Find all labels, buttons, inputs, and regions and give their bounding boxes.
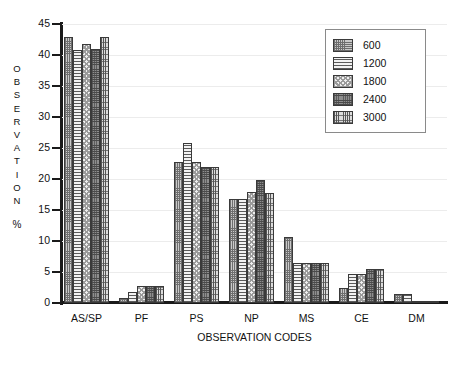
bar <box>229 199 238 303</box>
bar <box>64 37 73 303</box>
bar-group <box>174 24 219 303</box>
legend-swatch <box>333 111 353 124</box>
x-axis-category-label: MS <box>299 312 315 324</box>
bar <box>91 49 100 303</box>
x-axis-category-label: PF <box>135 312 148 324</box>
legend-swatch <box>333 93 353 106</box>
bar <box>247 192 256 303</box>
x-axis-category-label: PS <box>189 312 203 324</box>
bar <box>210 167 219 303</box>
y-axis-tick-mark <box>52 116 61 118</box>
y-axis-tick-label: 25 <box>4 141 50 153</box>
bar <box>311 263 320 303</box>
bar-group <box>64 24 109 303</box>
bar <box>394 294 403 303</box>
y-axis-tick-mark <box>52 240 61 242</box>
bar <box>320 263 329 303</box>
legend-swatch <box>333 75 353 88</box>
bar <box>174 162 183 303</box>
bar <box>403 294 412 303</box>
bar <box>100 37 109 303</box>
legend-item: 600 <box>333 36 418 54</box>
legend-swatch <box>333 39 353 52</box>
bar <box>265 193 274 303</box>
bar-group <box>229 24 274 303</box>
x-axis-category-labels: AS/SPPFPSNPMSCEDM <box>62 312 447 330</box>
legend-label: 1200 <box>363 57 386 69</box>
y-axis-tick-mark <box>52 271 61 273</box>
bar <box>137 286 146 303</box>
bar <box>302 263 311 303</box>
y-axis-tick-label: 45 <box>4 17 50 29</box>
legend-label: 3000 <box>363 111 386 123</box>
bar <box>119 298 128 303</box>
bar <box>375 269 384 303</box>
bar <box>201 167 210 303</box>
x-axis-category-label: NP <box>244 312 259 324</box>
bar <box>183 143 192 303</box>
y-axis-tick-mark <box>52 147 61 149</box>
y-axis-tick-label: 20 <box>4 172 50 184</box>
x-axis-title: OBSERVATION CODES <box>62 331 447 343</box>
legend-label: 1800 <box>363 75 386 87</box>
y-axis-tick-label: 30 <box>4 110 50 122</box>
bar <box>412 301 421 303</box>
bar <box>348 274 357 303</box>
y-axis-tick-label: 35 <box>4 79 50 91</box>
legend-item: 1200 <box>333 54 418 72</box>
legend-label: 600 <box>363 39 381 51</box>
bar <box>73 50 82 303</box>
bar <box>357 274 366 303</box>
y-axis-tick-mark <box>52 178 61 180</box>
y-axis-tick-mark <box>52 302 61 304</box>
y-axis-tick-mark <box>52 209 61 211</box>
bar <box>128 292 137 303</box>
bar <box>366 269 375 303</box>
y-axis-tick-mark <box>52 85 61 87</box>
y-axis-tick-label: 5 <box>4 265 50 277</box>
y-axis-tick-mark <box>52 54 61 56</box>
bar <box>82 44 91 303</box>
y-axis-tick-labels: 051015202530354045 <box>0 0 50 367</box>
y-axis-tick-label: 40 <box>4 48 50 60</box>
bar <box>293 263 302 303</box>
legend-item: 2400 <box>333 90 418 108</box>
y-axis-tick-label: 10 <box>4 234 50 246</box>
legend: 6001200180024003000 <box>325 29 426 133</box>
y-axis-tick-label: 0 <box>4 296 50 308</box>
bar <box>238 199 247 303</box>
bar <box>155 286 164 303</box>
bar <box>256 180 265 303</box>
bar-chart: OBSERVATION% 051015202530354045 AS/SPPFP… <box>0 0 455 367</box>
legend-swatch <box>333 57 353 70</box>
bar-group <box>284 24 329 303</box>
bar <box>146 286 155 303</box>
x-axis-category-label: DM <box>408 312 424 324</box>
y-axis-tick-label: 15 <box>4 203 50 215</box>
legend-item: 1800 <box>333 72 418 90</box>
bar-group <box>119 24 164 303</box>
bar <box>430 301 439 303</box>
x-axis-category-label: CE <box>354 312 369 324</box>
bar <box>192 162 201 303</box>
legend-item: 3000 <box>333 108 418 126</box>
y-axis-tick-mark <box>52 23 61 25</box>
legend-label: 2400 <box>363 93 386 105</box>
bar <box>421 301 430 303</box>
bar <box>284 237 293 303</box>
x-axis-category-label: AS/SP <box>71 312 102 324</box>
bar <box>339 288 348 304</box>
